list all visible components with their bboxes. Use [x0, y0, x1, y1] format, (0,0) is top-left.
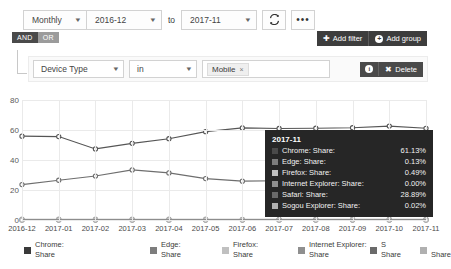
x-axis-tick-label: 2017-09 — [339, 224, 367, 233]
filter-value-chip-label: Mobile — [212, 65, 236, 74]
y-axis-tick-label: 60 — [10, 126, 19, 135]
legend-item[interactable]: Edge: Share — [150, 240, 181, 259]
tooltip-title: 2017-11 — [272, 135, 426, 144]
x-gridline — [206, 100, 207, 220]
tooltip-row: Chrome: Share:61.13% — [272, 146, 426, 156]
x-axis-tick-label: 2017-11 — [413, 224, 440, 233]
tooltip-swatch — [272, 170, 278, 176]
tooltip-swatch — [272, 181, 278, 187]
legend-label: Share — [431, 240, 451, 259]
x-axis-tick-label: 2016-12 — [8, 224, 36, 233]
x-axis-tick-label: 2017-02 — [82, 224, 110, 233]
date-from-select[interactable]: 2016-12 ▼ — [86, 10, 162, 30]
legend-label: S Share — [381, 240, 401, 259]
add-group-label: Add group — [386, 34, 421, 43]
filter-field-value: Device Type — [41, 64, 88, 74]
legend-swatch — [150, 247, 157, 254]
legend-item[interactable]: Chrome: Share — [24, 240, 64, 259]
tooltip-swatch — [272, 148, 278, 154]
tooltip-series-name: Chrome: Share: — [282, 146, 397, 156]
x-gridline — [242, 100, 243, 220]
chevron-down-icon: ▼ — [74, 17, 82, 23]
x-gridline — [132, 100, 133, 220]
filter-field-select[interactable]: Device Type ▼ — [33, 60, 124, 78]
tooltip-series-value: 0.02% — [405, 201, 426, 211]
tooltip-series-name: Internet Explorer: Share: — [282, 179, 401, 189]
legend-swatch — [370, 247, 377, 254]
y-gridline — [22, 100, 426, 101]
x-axis-tick-label: 2017-01 — [45, 224, 73, 233]
x-gridline — [59, 100, 60, 220]
date-from-value: 2016-12 — [95, 15, 126, 25]
x-gridline — [169, 100, 170, 220]
legend-item[interactable]: Firefox: Share — [222, 240, 258, 259]
refresh-button[interactable] — [262, 10, 286, 30]
y-axis-tick-label: 80 — [10, 96, 19, 105]
ellipsis-icon: ••• — [296, 18, 310, 22]
x-axis-tick-label: 2017-05 — [192, 224, 220, 233]
group-bracket — [17, 50, 27, 74]
add-filter-button[interactable]: ✚ Add filter — [317, 31, 370, 46]
query-toolbar: Monthly ▼ 2016-12 ▼ to 2017-11 ▼ ••• — [0, 0, 433, 32]
tooltip-row: Firefox: Share:0.49% — [272, 168, 426, 178]
period-select[interactable]: Monthly ▼ — [23, 10, 87, 30]
legend-label: Chrome: Share — [35, 240, 64, 259]
chevron-down-icon: ▼ — [149, 17, 157, 23]
filter-value-input[interactable]: Mobile × — [202, 60, 330, 78]
chevron-down-icon: ▼ — [112, 66, 120, 72]
y-axis-tick-label: 40 — [10, 156, 19, 165]
chart-legend: Chrome: ShareEdge: ShareFirefox: ShareIn… — [22, 240, 433, 266]
legend-item[interactable]: Internet Explorer: Share — [298, 240, 367, 259]
builder-actions: ✚ Add filter + Add group — [317, 31, 427, 46]
filter-info-button[interactable]: i — [360, 62, 379, 76]
x-axis-tick-label: 2017-03 — [118, 224, 146, 233]
tooltip-rows: Chrome: Share:61.13%Edge: Share:0.13%Fir… — [272, 146, 426, 211]
tooltip-series-value: 28.89% — [401, 190, 426, 200]
x-gridline — [22, 100, 23, 220]
chart-tooltip: 2017-11 Chrome: Share:61.13%Edge: Share:… — [265, 130, 433, 217]
plus-icon: ✚ — [323, 34, 330, 43]
add-group-button[interactable]: + Add group — [369, 31, 427, 46]
more-options-button[interactable]: ••• — [291, 10, 315, 30]
tooltip-swatch — [272, 159, 278, 165]
x-gridline — [95, 100, 96, 220]
x-axis-tick-label: 2017-04 — [155, 224, 183, 233]
tooltip-series-value: 0.00% — [405, 179, 426, 189]
tooltip-series-name: Firefox: Share: — [282, 168, 401, 178]
legend-swatch — [222, 247, 229, 254]
legend-swatch — [420, 247, 427, 254]
y-axis-tick-label: 20 — [10, 186, 19, 195]
legend-swatch — [298, 247, 305, 254]
period-select-value: Monthly — [32, 15, 62, 25]
legend-item[interactable]: Share — [420, 240, 451, 259]
tooltip-row: Sogou Explorer: Share:0.02% — [272, 201, 426, 211]
x-axis-tick-label: 2017-06 — [229, 224, 257, 233]
tooltip-row: Edge: Share:0.13% — [272, 157, 426, 167]
filter-operator-value: in — [137, 64, 144, 74]
chevron-down-icon: ▼ — [244, 17, 252, 23]
tooltip-series-value: 0.49% — [405, 168, 426, 178]
legend-item[interactable]: S Share — [370, 240, 401, 259]
tooltip-swatch — [272, 203, 278, 209]
date-range-separator: to — [168, 15, 175, 25]
tooltip-swatch — [272, 192, 278, 198]
tooltip-row: Internet Explorer: Share:0.00% — [272, 179, 426, 189]
filter-value-chip[interactable]: Mobile × — [207, 63, 249, 76]
date-to-select[interactable]: 2017-11 ▼ — [181, 10, 257, 30]
filter-builder: AND OR ✚ Add filter + Add group — [0, 32, 433, 52]
date-to-value: 2017-11 — [190, 15, 221, 25]
x-axis-tick-label: 2017-07 — [265, 224, 293, 233]
close-icon[interactable]: × — [240, 66, 244, 73]
filter-row-container: Device Type ▼ in ▼ Mobile × i ✖ Delete — [0, 58, 433, 88]
close-icon: ✖ — [385, 65, 392, 74]
logic-or-button[interactable]: OR — [38, 32, 59, 43]
tooltip-series-value: 0.13% — [405, 157, 426, 167]
legend-label: Edge: Share — [161, 240, 181, 259]
chevron-down-icon: ▼ — [185, 66, 193, 72]
tooltip-series-value: 61.13% — [401, 146, 426, 156]
x-axis-tick-label: 2017-10 — [376, 224, 404, 233]
tooltip-series-name: Sogou Explorer: Share: — [282, 201, 401, 211]
filter-delete-button[interactable]: ✖ Delete — [379, 62, 423, 77]
filter-operator-select[interactable]: in ▼ — [129, 60, 197, 78]
logic-and-button[interactable]: AND — [12, 32, 38, 43]
